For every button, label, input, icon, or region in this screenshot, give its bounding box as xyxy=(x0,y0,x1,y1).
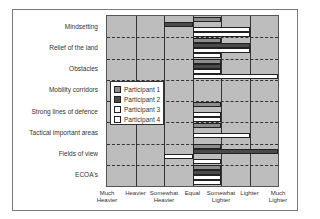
bar-participant-4 xyxy=(193,53,222,58)
bar-participant-1 xyxy=(193,17,222,22)
bar-participant-3 xyxy=(164,154,193,159)
y-axis-label: Fields of view xyxy=(59,150,98,157)
x-axis-tick-label: MuchLighter xyxy=(258,190,298,204)
bar-participant-4 xyxy=(193,117,222,122)
y-axis-label: Tactical important areas xyxy=(29,129,98,136)
legend-label: Participant 1 xyxy=(124,86,160,93)
bar-participant-4 xyxy=(193,159,222,164)
legend-label: Participant 4 xyxy=(124,116,160,123)
bar-participant-4 xyxy=(193,180,222,185)
legend-item-participant-4: Participant 4 xyxy=(114,114,160,124)
legend-swatch-4 xyxy=(114,116,121,123)
legend-label: Participant 2 xyxy=(124,96,160,103)
bar-participant-1 xyxy=(193,102,222,107)
legend-swatch-2 xyxy=(114,96,121,103)
y-axis-label: Mobility corridors xyxy=(49,86,98,93)
bar-participant-4 xyxy=(193,74,279,79)
legend-item-participant-2: Participant 2 xyxy=(114,94,160,104)
bar-participant-4 xyxy=(193,32,250,37)
y-axis-label: ECOA's xyxy=(75,171,98,178)
legend-swatch-1 xyxy=(114,86,121,93)
bar-participant-3 xyxy=(193,133,250,138)
legend: Participant 1 Participant 2 Participant … xyxy=(110,81,164,125)
bar-participant-2 xyxy=(193,149,279,154)
y-axis-label: Relief of the land xyxy=(49,44,98,51)
legend-item-participant-3: Participant 3 xyxy=(114,104,160,114)
y-axis-label: Mindsetting xyxy=(65,23,98,30)
bar-participant-2 xyxy=(164,22,193,27)
y-axis-label: Obstacles xyxy=(69,65,98,72)
y-axis-label: Strong lines of defence xyxy=(32,108,99,115)
legend-label: Participant 3 xyxy=(124,106,160,113)
legend-swatch-3 xyxy=(114,106,121,113)
bar-participant-1 xyxy=(193,123,222,128)
legend-item-participant-1: Participant 1 xyxy=(114,84,160,94)
